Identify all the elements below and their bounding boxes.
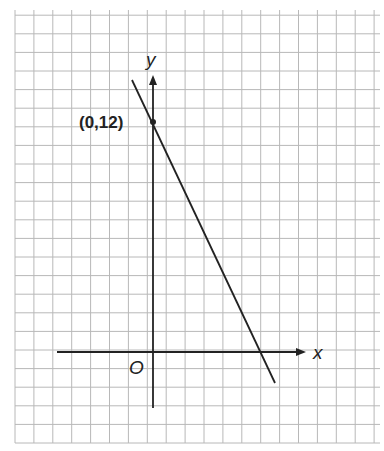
- y-axis-arrow-icon: [149, 75, 157, 85]
- coordinate-graph: (0,12) x y O: [0, 0, 384, 451]
- y-axis-label: y: [144, 49, 157, 70]
- x-axis-label: x: [312, 342, 324, 363]
- origin-label: O: [129, 357, 144, 378]
- y-intercept-point: [150, 119, 156, 125]
- point-label: (0,12): [79, 113, 123, 132]
- x-axis-arrow-icon: [296, 348, 306, 356]
- grid-lines: [15, 10, 380, 443]
